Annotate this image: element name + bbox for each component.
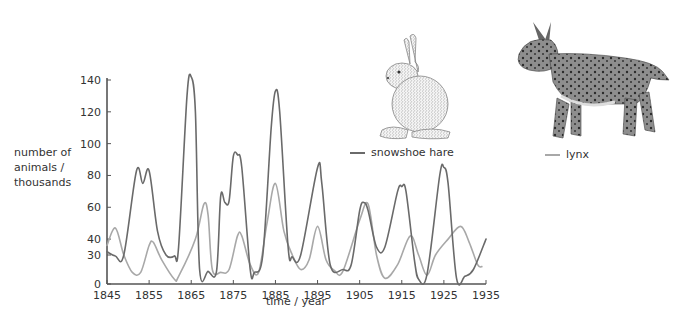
legend-lynx: lynx — [545, 148, 589, 161]
y-tick-label: 60 — [87, 201, 101, 214]
x-tick-label: 1875 — [219, 289, 247, 302]
x-tick-label: 1905 — [346, 289, 374, 302]
y-tick-label: 0 — [94, 278, 101, 291]
x-tick-label: 1915 — [388, 289, 416, 302]
y-tick-label: 100 — [80, 138, 101, 151]
snowshoe-hare-illustration — [368, 32, 454, 144]
legend-hare-label: snowshoe hare — [371, 146, 454, 159]
legend-lynx-label: lynx — [566, 148, 589, 161]
y-tick-label: 30 — [87, 249, 101, 262]
y-tick-label: 140 — [80, 74, 101, 87]
lynx-illustration — [505, 14, 675, 144]
y-axis-title: number of animals / thousands — [14, 145, 71, 190]
x-tick-label: 1855 — [135, 289, 163, 302]
x-tick-label: 1865 — [177, 289, 205, 302]
y-axis-title-line-3: thousands — [14, 175, 71, 190]
lynx-line — [107, 183, 482, 281]
x-tick-label: 1935 — [472, 289, 500, 302]
y-tick-label: 40 — [87, 233, 101, 246]
x-axis-title: time / year — [266, 295, 327, 308]
y-axis-title-line-2: animals / — [14, 160, 71, 175]
legend-snowshoe-hare: snowshoe hare — [350, 146, 454, 159]
x-tick-label: 1925 — [430, 289, 458, 302]
hare-line-swatch — [350, 152, 365, 154]
y-tick-label: 80 — [87, 169, 101, 182]
lynx-line-swatch — [545, 154, 560, 156]
y-tick-label: 120 — [80, 106, 101, 119]
y-axis-title-line-1: number of — [14, 145, 71, 160]
